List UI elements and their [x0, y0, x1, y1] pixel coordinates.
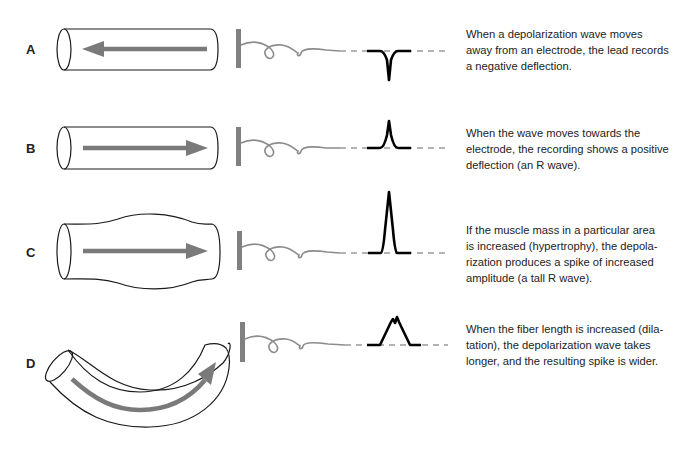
lead-wire-icon	[242, 244, 340, 260]
wave-direction-arrow-curved-icon	[72, 362, 216, 410]
ecg-depolarization-diagram: A B C D When a depolarization wave moves…	[0, 0, 681, 451]
row-label-b: B	[26, 141, 35, 156]
electrode-icon	[237, 231, 242, 270]
row-label-d: D	[26, 356, 35, 371]
wave-direction-arrow-right-icon	[83, 243, 208, 259]
ecg-trace-wide-spike	[367, 317, 421, 345]
ecg-trace-negative-deflection	[367, 51, 411, 80]
ecg-trace-tall-r-wave	[368, 192, 411, 253]
caption-b: When the wave moves towards the electrod…	[466, 125, 681, 173]
wave-direction-arrow-left-icon	[82, 41, 207, 57]
wave-direction-arrow-right-icon	[83, 140, 208, 156]
row-a	[57, 29, 448, 80]
caption-c: If the muscle mass in a particular area …	[466, 222, 681, 286]
caption-a: When a depolarization wave moves away fr…	[466, 26, 681, 74]
ecg-trace-positive-deflection	[367, 121, 411, 148]
lead-wire-icon	[241, 140, 340, 156]
lead-wire-icon	[245, 336, 345, 352]
electrode-icon	[240, 322, 245, 362]
row-label-c: C	[26, 245, 35, 260]
row-label-a: A	[26, 42, 35, 57]
row-b	[57, 121, 448, 169]
electrode-icon	[236, 127, 241, 166]
electrode-icon	[236, 29, 241, 68]
row-c	[57, 192, 448, 289]
row-d	[41, 317, 448, 427]
lead-wire-icon	[241, 42, 340, 58]
caption-d: When the fiber length is increased (dila…	[466, 321, 681, 369]
